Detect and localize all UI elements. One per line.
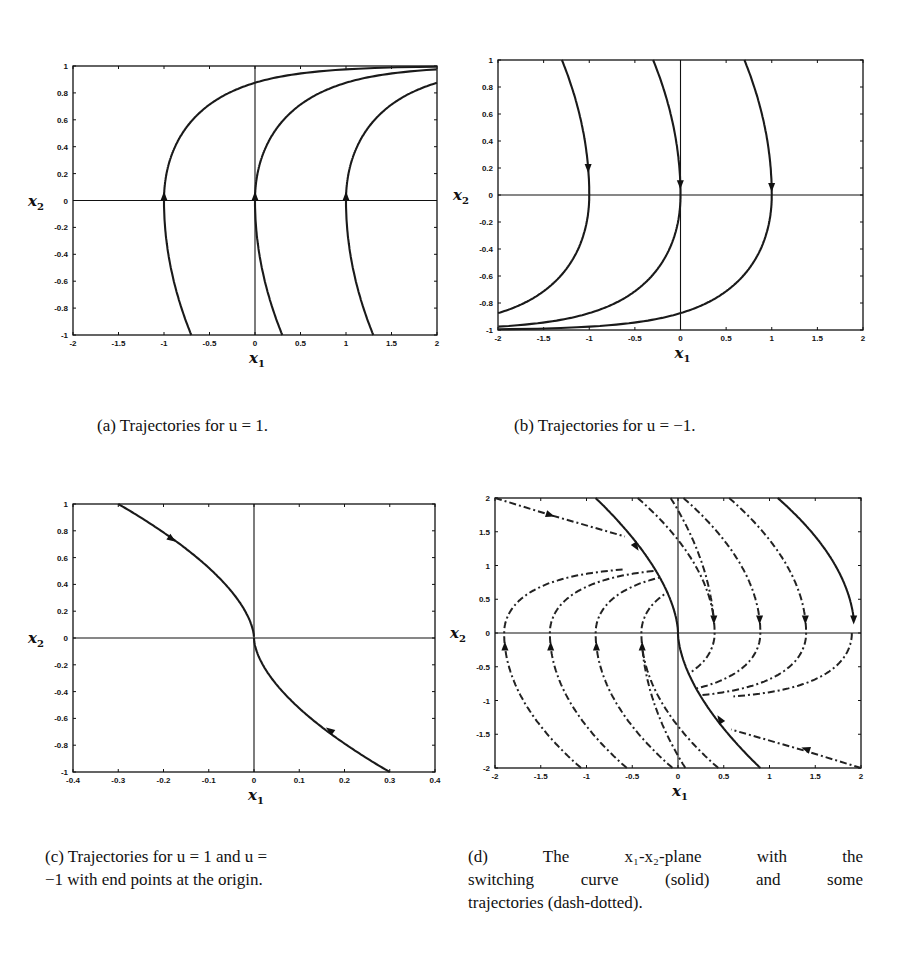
up-arrow-icon: [501, 642, 508, 651]
solid-trajectory: [778, 498, 854, 618]
x-tick-label: 0: [676, 772, 681, 781]
caption-d: (d) The x₁-x₂-plane with the switching c…: [468, 845, 863, 914]
down-arrow-icon: [850, 616, 857, 625]
y-axis-label: x2: [449, 624, 466, 644]
x-tick-label: -1: [583, 772, 591, 781]
y-tick-label: 0.5: [479, 595, 491, 604]
up-arrow-icon: [639, 642, 646, 651]
y-tick-label: 2: [486, 494, 491, 503]
dash-dotted-trajectory: [684, 498, 761, 688]
plot-d: -2-1.5-1-0.500.511.52-2-1.5-1-0.500.511.…: [0, 0, 920, 958]
x-tick-label: -0.5: [625, 772, 639, 781]
arrow-icon: [545, 510, 556, 519]
dash-dotted-trajectory: [642, 648, 685, 768]
y-tick-label: 1: [486, 562, 491, 571]
y-tick-label: -1: [483, 697, 491, 706]
down-arrow-icon: [802, 616, 809, 625]
dash-dotted-trajectory: [638, 498, 715, 674]
y-tick-label: -0.5: [476, 663, 490, 672]
dash-dotted-trajectory: [596, 578, 673, 768]
figure-panel-d: -2-1.5-1-0.500.511.52-2-1.5-1-0.500.511.…: [0, 0, 920, 958]
x-tick-label: -1.5: [534, 772, 548, 781]
caption-d-line-2: switching curve (solid) and some: [468, 868, 863, 891]
up-arrow-icon: [593, 642, 600, 651]
y-tick-label: 1.5: [479, 528, 491, 537]
x-tick-label: -2: [491, 772, 499, 781]
y-tick-label: 0: [486, 629, 491, 638]
dash-dotted-trajectory: [641, 593, 718, 769]
x-tick-label: 1.5: [810, 772, 822, 781]
y-tick-label: -2: [483, 764, 491, 773]
x-axis-label: x1: [671, 782, 688, 802]
dash-dotted-trajectory: [495, 498, 625, 537]
y-tick-label: -1.5: [476, 730, 490, 739]
down-arrow-icon: [710, 616, 717, 625]
x-tick-label: 1: [767, 772, 772, 781]
caption-d-line-1: (d) The x₁-x₂-plane with the: [468, 845, 863, 868]
down-arrow-icon: [756, 616, 763, 625]
up-arrow-icon: [547, 642, 554, 651]
dash-dotted-trajectory: [504, 570, 622, 769]
caption-d-line-3: trajectories (dash-dotted).: [468, 891, 863, 914]
x-tick-label: 2: [859, 772, 864, 781]
dash-dotted-trajectory: [671, 498, 714, 618]
x-tick-label: 0.5: [718, 772, 730, 781]
dash-dotted-trajectory: [731, 730, 861, 769]
